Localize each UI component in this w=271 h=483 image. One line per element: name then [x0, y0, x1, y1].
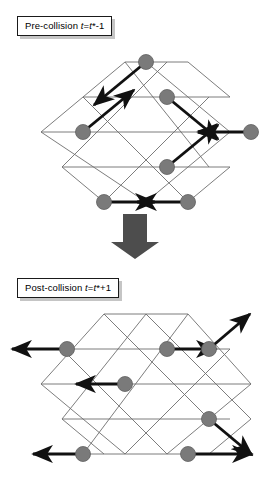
velocity-arrow-down-right: [209, 419, 252, 455]
post-collision-label-prefix: Post-collision: [25, 282, 85, 293]
post-collision-lattice-svg: [0, 304, 271, 476]
velocity-arrow-up-right: [83, 90, 134, 132]
particle-node[interactable]: [202, 412, 217, 427]
block-arrow-down: [110, 214, 160, 260]
grid-line-d2: [62, 349, 167, 454]
particle-node[interactable]: [244, 125, 259, 140]
pre-collision-label-prefix: Pre-collision: [25, 20, 81, 31]
pre-collision-label: Pre-collision t=t*-1: [17, 16, 112, 36]
particle-node[interactable]: [76, 125, 91, 140]
grid-line-d2: [104, 314, 209, 419]
particle-node[interactable]: [118, 377, 133, 392]
post-collision-particles: [60, 342, 217, 462]
velocity-arrow-up-right: [209, 314, 250, 349]
particle-node[interactable]: [160, 160, 175, 175]
particle-node[interactable]: [181, 195, 196, 210]
particle-node[interactable]: [160, 90, 175, 105]
grid-line-d2: [62, 167, 104, 202]
grid-line-d2: [188, 62, 230, 97]
block-arrow-shape: [111, 214, 159, 259]
velocity-arrow-down-left: [94, 62, 146, 105]
grid-line-d1: [125, 349, 230, 454]
pre-collision-lattice-svg: [0, 52, 271, 212]
particle-node[interactable]: [60, 342, 75, 357]
pre-collision-panel: Pre-collision t=t*-1: [0, 0, 271, 262]
grid-line-d2: [83, 97, 188, 202]
particle-node[interactable]: [202, 342, 217, 357]
block-arrow-down-svg: [110, 214, 160, 260]
post-collision-label-suffix: *+1: [96, 282, 111, 293]
grid-line-d1: [62, 314, 146, 419]
particle-node[interactable]: [160, 342, 175, 357]
grid-line-d1: [62, 62, 167, 167]
particle-node[interactable]: [97, 195, 112, 210]
particle-node[interactable]: [181, 447, 196, 462]
grid-line-d1: [104, 97, 209, 202]
grid-line-d1: [188, 167, 230, 202]
post-collision-panel: Post-collision t=t*+1: [0, 262, 271, 483]
post-collision-lattice: [0, 304, 271, 476]
post-collision-label: Post-collision t=t*+1: [17, 278, 119, 298]
particle-node[interactable]: [139, 55, 154, 70]
particle-node[interactable]: [76, 447, 91, 462]
lattice-grid-lines: [41, 314, 251, 454]
pre-collision-label-suffix: *-1: [92, 20, 104, 31]
pre-collision-lattice: [0, 52, 271, 212]
